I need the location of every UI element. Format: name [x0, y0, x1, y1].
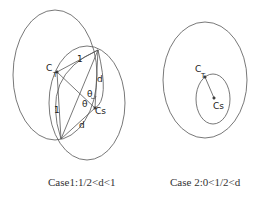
- one-left-label: 1: [54, 105, 60, 115]
- case1-figure: [13, 10, 125, 160]
- outer-ellipse: [163, 22, 247, 138]
- case2-figure: [163, 22, 247, 138]
- diagram-canvas: C T Cs 1 1 d d θ θ Case1:1/2<d<1 C T Cs …: [0, 0, 262, 199]
- ct-subscript: T: [52, 71, 58, 79]
- segment-ct-cs: [205, 77, 214, 98]
- case2-caption: Case 2:0<1/2<d: [170, 176, 241, 188]
- case1-caption: Case1:1/2<d<1: [48, 176, 115, 188]
- one-top-label: 1: [77, 54, 83, 64]
- d-bottom-label: d: [79, 120, 85, 130]
- cs-point: [213, 97, 215, 99]
- cs-label: Cs: [95, 106, 106, 116]
- ct-label: C: [46, 63, 52, 73]
- theta-lower-label: θ: [82, 99, 88, 109]
- ct-subscript: T: [200, 72, 206, 80]
- d-right-label: d: [97, 74, 103, 84]
- theta-upper-label: θ: [87, 89, 93, 99]
- segment-bottom-cs: [61, 108, 95, 139]
- cs-label: Cs: [213, 101, 224, 111]
